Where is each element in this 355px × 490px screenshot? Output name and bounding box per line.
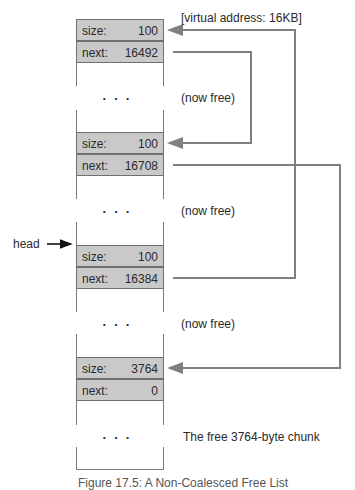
side-line <box>163 222 164 245</box>
block3-next-row: next:16384 <box>76 267 164 289</box>
head-label: head <box>13 237 40 251</box>
side-line <box>76 110 77 132</box>
next-value: 16708 <box>125 159 158 173</box>
side-line <box>163 401 164 425</box>
next-value: 16384 <box>125 272 158 286</box>
next-label: next: <box>82 384 108 398</box>
arrow-16384 <box>169 30 295 278</box>
block4-note: The free 3764-byte chunk <box>183 430 320 444</box>
size-value: 100 <box>138 250 158 264</box>
size-label: size: <box>82 24 107 38</box>
side-line <box>163 176 164 199</box>
next-label: next: <box>82 46 108 60</box>
side-line <box>163 447 164 469</box>
size-label: size: <box>82 250 107 264</box>
ellipsis: ... <box>76 427 164 442</box>
side-line <box>76 289 77 312</box>
block3-size-row: size:100 <box>76 245 164 267</box>
side-line <box>163 110 164 132</box>
side-line <box>163 63 164 86</box>
heap-bottom-line <box>76 469 164 470</box>
side-line <box>163 334 164 357</box>
size-label: size: <box>82 362 107 376</box>
block1-note: (now free) <box>181 91 235 105</box>
ellipsis: ... <box>76 88 164 103</box>
block4-size-row: size:3764 <box>76 357 164 379</box>
figure-caption: Figure 17.5: A Non-Coalesced Free List <box>78 476 288 490</box>
side-line <box>163 289 164 312</box>
block3-note: (now free) <box>181 317 235 331</box>
side-line <box>76 334 77 357</box>
size-value: 100 <box>138 24 158 38</box>
block4-next-row: next:0 <box>76 379 164 401</box>
ellipsis: ... <box>76 201 164 216</box>
side-line <box>76 176 77 199</box>
block2-size-row: size:100 <box>76 132 164 154</box>
ellipsis: ... <box>76 314 164 329</box>
next-value: 16492 <box>125 46 158 60</box>
next-label: next: <box>82 272 108 286</box>
size-label: size: <box>82 137 107 151</box>
size-value: 3764 <box>131 362 158 376</box>
side-line <box>76 401 77 425</box>
block2-next-row: next:16708 <box>76 154 164 176</box>
arrow-16708 <box>169 165 340 368</box>
side-line <box>76 63 77 86</box>
next-value: 0 <box>151 384 158 398</box>
side-line <box>76 447 77 469</box>
virtual-address-label: [virtual address: 16KB] <box>181 11 302 25</box>
block2-note: (now free) <box>181 204 235 218</box>
side-line <box>76 222 77 245</box>
block1-next-row: next:16492 <box>76 41 164 63</box>
next-label: next: <box>82 159 108 173</box>
size-value: 100 <box>138 137 158 151</box>
block1-size-row: size:100 <box>76 19 164 41</box>
